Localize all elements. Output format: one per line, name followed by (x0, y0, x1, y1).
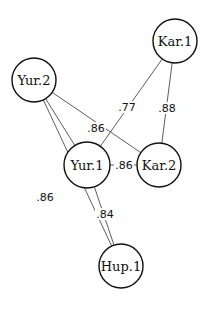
edge-weight-label: .88 (158, 102, 176, 115)
node-label: Hup.1 (101, 259, 141, 274)
edge-weight-label: .86 (115, 159, 133, 172)
node-label: Yur.2 (16, 73, 50, 88)
node-yur2: Yur.2 (12, 58, 56, 102)
edge-weight-label: .84 (96, 208, 114, 221)
node-label: Kar.2 (142, 158, 177, 173)
network-diagram: .77.88.86.86.86.84 Kar.1Yur.2Yur.1Kar.2H… (0, 0, 204, 309)
node-kar2: Kar.2 (137, 143, 181, 187)
node-label: Yur.1 (69, 158, 103, 173)
edge-weight-label: .86 (87, 122, 105, 135)
edge-weight-label: .86 (36, 191, 54, 204)
node-hup1: Hup.1 (99, 244, 143, 288)
edge-weight-label: .77 (118, 101, 136, 114)
node-label: Kar.1 (158, 34, 193, 49)
node-kar1: Kar.1 (153, 19, 197, 63)
nodes-layer: Kar.1Yur.2Yur.1Kar.2Hup.1 (12, 19, 197, 288)
node-yur1: Yur.1 (64, 142, 110, 188)
